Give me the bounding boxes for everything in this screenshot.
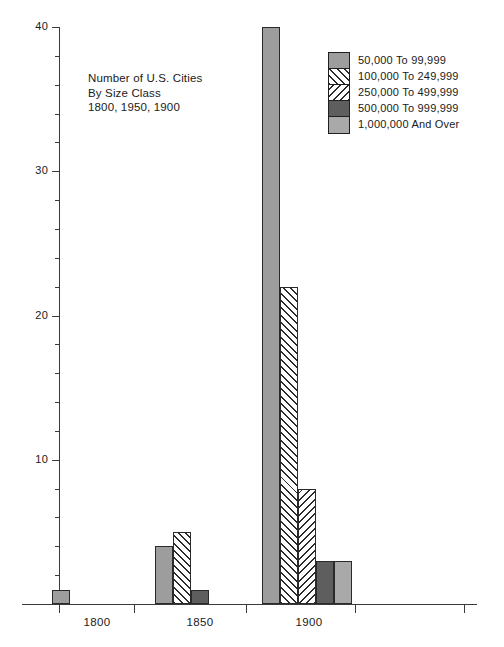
y-tick-minor (55, 200, 60, 201)
chart-title: Number of U.S. Cities By Size Class 1800… (88, 71, 202, 115)
legend-label: 1,000,000 And Over (358, 116, 459, 132)
y-tick-minor (55, 258, 60, 259)
y-tick-minor (55, 373, 60, 374)
y-tick-major (52, 460, 60, 461)
y-tick-major (52, 171, 60, 172)
y-axis-label-wrap: 10 (0, 454, 48, 465)
legend-swatch (329, 117, 349, 133)
legend-label: 500,000 To 999,999 (358, 100, 459, 116)
bar (52, 590, 70, 604)
bar (155, 546, 173, 604)
bar (191, 590, 209, 604)
bar (262, 27, 280, 604)
bar (334, 561, 352, 604)
x-tick (246, 604, 247, 613)
chart-title-line-2: By Size Class (88, 86, 202, 101)
y-tick-minor (55, 344, 60, 345)
bar (298, 489, 316, 604)
legend-label: 50,000 To 99,999 (358, 52, 446, 68)
legend-swatch-column (328, 52, 350, 134)
y-tick-minor (55, 229, 60, 230)
y-tick-minor (55, 489, 60, 490)
bar (316, 561, 334, 604)
y-axis-label-wrap: 40 (0, 21, 48, 32)
y-axis-label: 10 (2, 454, 48, 465)
legend-swatch (329, 69, 349, 85)
y-axis-label: 40 (2, 21, 48, 32)
legend-label: 250,000 To 499,999 (358, 84, 459, 100)
y-tick-minor (55, 517, 60, 518)
x-tick (59, 604, 60, 613)
legend-swatch (329, 85, 349, 101)
y-tick-minor (55, 546, 60, 547)
y-axis-label: 20 (2, 310, 48, 321)
y-tick-minor (55, 402, 60, 403)
x-axis-label: 1850 (170, 616, 230, 629)
legend-swatch (329, 53, 349, 69)
y-tick-major (52, 27, 60, 28)
legend-swatch (329, 101, 349, 117)
x-tick (134, 604, 135, 613)
legend-label: 100,000 To 249,999 (358, 68, 459, 84)
chart-title-line-1: Number of U.S. Cities (88, 71, 202, 86)
x-axis-label: 1800 (67, 616, 127, 629)
x-axis-line (22, 604, 477, 605)
y-tick-minor (55, 575, 60, 576)
bar (280, 287, 298, 604)
bar-chart: Number of U.S. Cities By Size Class 1800… (0, 0, 504, 647)
y-axis-label-wrap: 30 (0, 165, 48, 176)
y-tick-minor (55, 287, 60, 288)
y-axis-label-wrap: 20 (0, 310, 48, 321)
bar (173, 532, 191, 604)
y-tick-minor (55, 431, 60, 432)
y-tick-minor (55, 114, 60, 115)
x-tick (355, 604, 356, 613)
y-tick-major (52, 316, 60, 317)
y-tick-minor (55, 142, 60, 143)
x-tick (464, 604, 465, 613)
chart-title-line-3: 1800, 1950, 1900 (88, 100, 202, 115)
y-tick-minor (55, 85, 60, 86)
y-axis-label: 30 (2, 165, 48, 176)
x-axis-label: 1900 (279, 616, 339, 629)
y-tick-minor (55, 56, 60, 57)
